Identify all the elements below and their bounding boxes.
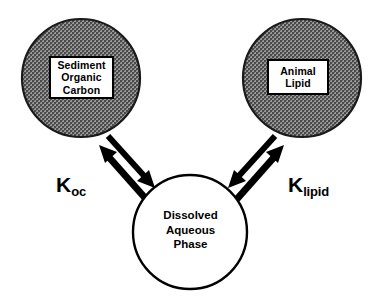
connector-label-k-lipid: Klipid — [288, 174, 329, 195]
node-label-line: Dissolved — [163, 208, 217, 223]
node-label-line: Animal — [280, 65, 316, 77]
node-label-line: Lipid — [285, 77, 311, 89]
partitioning-diagram: Sediment Organic Carbon Animal Lipid Dis… — [0, 0, 380, 304]
connector-label-symbol: K — [288, 173, 303, 196]
node-label-dissolved-aqueous-phase: Dissolved Aqueous Phase — [141, 206, 240, 254]
diagram-canvas — [0, 0, 380, 304]
node-label-line: Carbon — [63, 84, 100, 96]
connector-k-lipid — [228, 136, 284, 199]
node-label-line: Sediment — [57, 59, 105, 71]
node-label-animal-lipid: Animal Lipid — [267, 59, 329, 95]
connector-label-subscript: oc — [71, 184, 86, 199]
node-label-line: Organic — [61, 71, 101, 83]
node-label-line: Phase — [174, 237, 208, 252]
connector-label-symbol: K — [56, 173, 71, 196]
connector-label-subscript: lipid — [303, 184, 329, 199]
node-label-line: Aqueous — [166, 223, 215, 238]
connector-k-oc — [99, 136, 155, 199]
node-label-sediment-organic-carbon: Sediment Organic Carbon — [49, 56, 114, 99]
connector-label-k-oc: Koc — [56, 174, 86, 195]
